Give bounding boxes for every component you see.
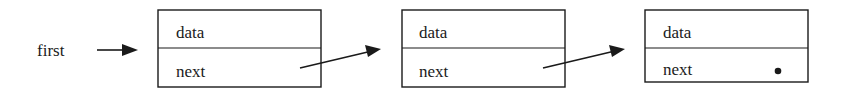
node-1-next-field: next — [176, 62, 206, 81]
null-pointer-dot-icon — [775, 68, 782, 75]
node-1: data next — [158, 10, 321, 87]
node-3: data next — [645, 10, 808, 82]
linked-list-diagram: first data next data next data next — [0, 0, 845, 94]
first-arrow — [97, 44, 138, 56]
node-2-data-field: data — [419, 23, 448, 42]
node-1-data-field: data — [176, 23, 205, 42]
first-pointer-label: first — [37, 41, 65, 60]
node-2: data next — [402, 10, 565, 87]
node-2-next-field: next — [419, 62, 449, 81]
node-3-data-field: data — [663, 23, 692, 42]
node-3-next-field: next — [663, 60, 693, 79]
